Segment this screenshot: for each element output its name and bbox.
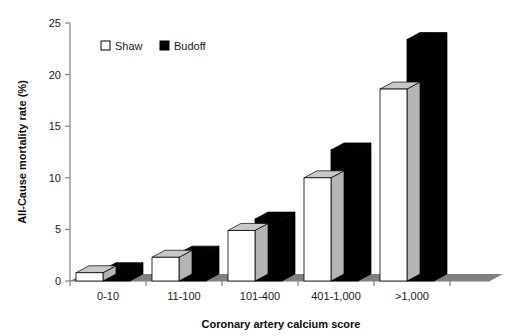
bar-shaw-4	[380, 82, 420, 281]
bar-shaw-2	[228, 223, 268, 281]
chart-container: 0510152025 0-1011-100101-400401-1,000>1,…	[0, 0, 521, 336]
y-tick-labels: 0510152025	[49, 17, 61, 287]
x-tick-label: 0-10	[97, 290, 119, 302]
x-tick-label: >1,000	[395, 290, 429, 302]
legend-label-budoff: Budoff	[174, 40, 207, 52]
chart-legend: Shaw Budoff	[101, 40, 207, 52]
bar-chart: 0510152025 0-1011-100101-400401-1,000>1,…	[0, 0, 521, 336]
x-tick-label: 401-1,000	[311, 290, 361, 302]
x-tick-labels: 0-1011-100101-400401-1,000>1,000	[97, 290, 429, 302]
legend-swatch-shaw	[101, 41, 110, 50]
y-tick-label: 15	[49, 120, 61, 132]
bar-shaw-1	[152, 250, 192, 281]
y-tick-label: 0	[55, 275, 61, 287]
x-axis-title: Coronary artery calcium score	[202, 318, 361, 330]
x-tick-label: 11-100	[167, 290, 200, 302]
y-tick-label: 5	[55, 223, 61, 235]
bar-shaw-3	[304, 171, 344, 281]
x-tick-label: 101-400	[240, 290, 280, 302]
legend-swatch-budoff	[160, 41, 169, 50]
legend-label-shaw: Shaw	[115, 40, 143, 52]
y-tick-label: 10	[49, 172, 61, 184]
bars-layer	[76, 33, 447, 281]
y-tick-label: 20	[49, 69, 61, 81]
y-tick-label: 25	[49, 17, 61, 29]
y-axis-title: All-Cause mortality rate (%)	[16, 80, 28, 224]
